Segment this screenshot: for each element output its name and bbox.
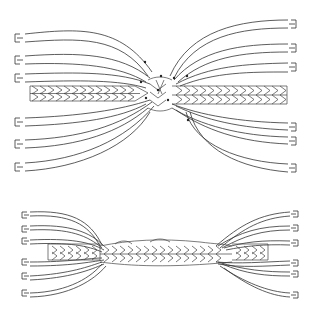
top-figure [15,20,296,172]
bottom-left-caps [22,212,29,296]
left-upper-strands [25,31,152,88]
right-braided-core [172,86,287,104]
bottom-splice-body [48,239,268,266]
bottom-figure [22,211,298,298]
left-lower-strands [25,100,154,171]
bottom-right-strands [216,212,290,297]
left-strand-caps [15,34,23,171]
right-strand-caps [289,20,296,172]
right-lower-strands [172,104,288,172]
left-braided-core [30,86,148,101]
bottom-right-caps [291,211,298,298]
center-splice [148,77,172,111]
diagram-canvas [0,0,319,318]
splice-diagram [0,0,319,318]
